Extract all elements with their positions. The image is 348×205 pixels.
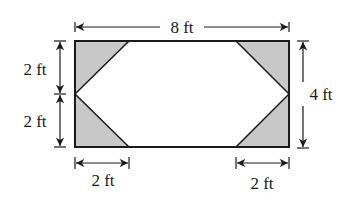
top-left-triangle (75, 41, 129, 94)
label-left-lower: 2 ft (23, 112, 46, 131)
label-right-height: 4 ft (309, 85, 332, 104)
bottom-right-triangle (236, 94, 289, 147)
label-top-width: 8 ft (170, 18, 193, 37)
bottom-left-triangle (75, 94, 129, 147)
rectangle-diagram: 8 ft 2 ft 2 ft 4 ft 2 ft 2 ft (0, 0, 348, 205)
label-bottom-left: 2 ft (91, 171, 114, 190)
label-left-upper: 2 ft (23, 60, 46, 79)
label-bottom-right: 2 ft (250, 174, 273, 193)
top-right-triangle (236, 41, 289, 94)
